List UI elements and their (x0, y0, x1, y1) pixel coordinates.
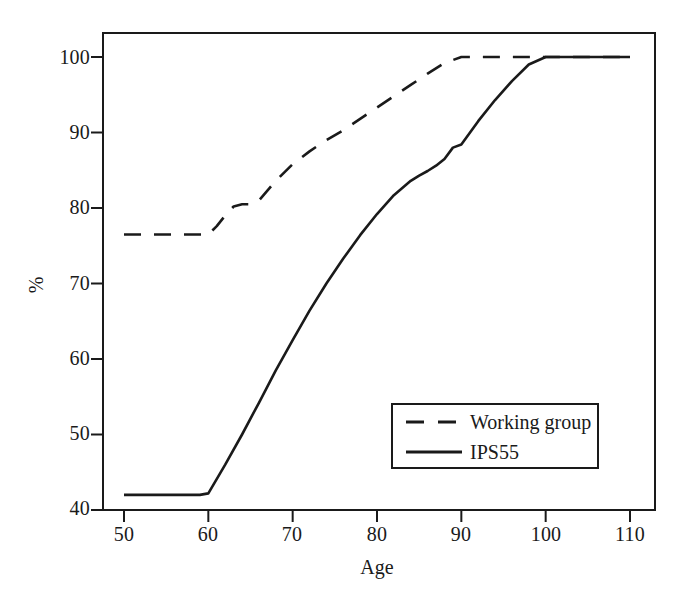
x-tick-label-50: 50 (114, 524, 134, 544)
y-tick-label-100: 100 (40, 47, 90, 67)
x-tick-label-70: 70 (282, 524, 302, 544)
legend-label-ips55: IPS55 (470, 442, 519, 462)
legend-label-working-group: Working group (470, 412, 591, 432)
chart-canvas (0, 0, 686, 605)
y-tick-label-40: 40 (40, 498, 90, 518)
y-tick-label-50: 50 (40, 423, 90, 443)
x-axis-title: Age (360, 557, 393, 577)
chart-figure: 100 90 80 70 60 50 40 50 60 70 80 90 100… (0, 0, 686, 605)
y-tick-label-80: 80 (40, 197, 90, 217)
y-tick-label-70: 70 (40, 273, 90, 293)
x-tick-label-60: 60 (198, 524, 218, 544)
x-axis-ticks (124, 510, 630, 522)
x-tick-label-110: 110 (615, 524, 645, 544)
y-tick-label-90: 90 (40, 122, 90, 142)
series-line-working-group (124, 57, 630, 234)
x-tick-label-80: 80 (367, 524, 387, 544)
y-axis-title: % (26, 277, 46, 294)
x-tick-label-90: 90 (451, 524, 471, 544)
y-tick-label-60: 60 (40, 348, 90, 368)
x-tick-label-100: 100 (531, 524, 562, 544)
y-axis-ticks (91, 57, 103, 510)
